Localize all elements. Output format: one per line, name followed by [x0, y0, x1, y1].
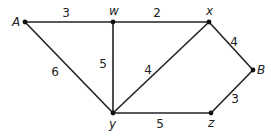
node-y — [111, 111, 116, 116]
edges — [25, 22, 253, 113]
node-label-z: z — [207, 116, 215, 130]
edge-weight-A-w: 3 — [62, 6, 70, 20]
edge-x-y — [113, 22, 209, 113]
node-w — [111, 20, 116, 25]
node-B — [251, 68, 256, 73]
edge-weight-A-y: 6 — [51, 65, 59, 79]
node-z — [209, 111, 214, 116]
node-label-x: x — [205, 4, 214, 18]
node-label-y: y — [108, 117, 117, 131]
weighted-graph-diagram: 32435654 AwxBzy — [0, 0, 271, 139]
edge-weight-w-x: 2 — [153, 6, 161, 20]
edge-weight-x-y: 4 — [144, 63, 152, 77]
node-label-B: B — [257, 63, 265, 77]
edge-weight-B-z: 3 — [231, 92, 239, 106]
edge-weight-y-z: 5 — [156, 117, 164, 131]
node-A — [23, 20, 28, 25]
edge-weight-w-y: 5 — [99, 57, 107, 71]
node-x — [207, 20, 212, 25]
node-label-w: w — [109, 4, 119, 18]
node-labels: AwxBzy — [11, 4, 265, 131]
node-label-A: A — [11, 15, 20, 29]
edge-weight-x-B: 4 — [230, 35, 238, 49]
